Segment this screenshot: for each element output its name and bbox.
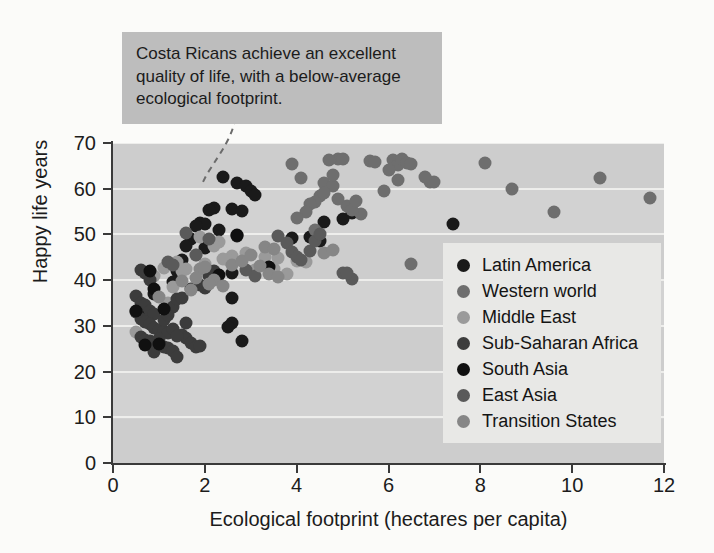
data-point bbox=[235, 335, 248, 348]
data-point bbox=[166, 258, 179, 271]
scatter-chart-figure: 010203040506070 024681012 Happy life yea… bbox=[0, 0, 714, 553]
data-point bbox=[139, 339, 152, 352]
data-point bbox=[203, 277, 216, 290]
legend-item-label: Sub-Saharan Africa bbox=[482, 333, 638, 354]
legend-item[interactable]: Middle East bbox=[457, 304, 661, 330]
data-point bbox=[249, 189, 262, 202]
legend-swatch-icon bbox=[457, 311, 470, 324]
data-point bbox=[235, 204, 248, 217]
data-point bbox=[180, 317, 193, 330]
y-axis-tick-label: 50 bbox=[56, 223, 96, 246]
data-point bbox=[198, 261, 211, 274]
data-point bbox=[194, 339, 207, 352]
legend-swatch-icon bbox=[457, 415, 470, 428]
x-axis-tick bbox=[112, 464, 114, 473]
x-axis-tick-label: 10 bbox=[552, 474, 592, 497]
data-point bbox=[405, 157, 418, 170]
data-point bbox=[157, 303, 170, 316]
legend-swatch-icon bbox=[457, 259, 470, 272]
y-axis-tick bbox=[103, 279, 112, 281]
legend-item-label: Latin America bbox=[482, 255, 591, 276]
data-point bbox=[391, 173, 404, 186]
y-axis-tick bbox=[103, 371, 112, 373]
data-point bbox=[221, 320, 234, 333]
x-axis-tick-label: 2 bbox=[185, 474, 225, 497]
legend-swatch-icon bbox=[457, 363, 470, 376]
x-axis-tick-label: 6 bbox=[369, 474, 409, 497]
data-point bbox=[152, 290, 165, 303]
y-axis-title: Happy life years bbox=[29, 87, 52, 337]
legend-swatch-icon bbox=[457, 389, 470, 402]
legend-item-label: Transition States bbox=[482, 411, 616, 432]
data-point bbox=[405, 258, 418, 271]
y-axis-tick bbox=[103, 188, 112, 190]
data-point bbox=[318, 187, 331, 200]
data-point bbox=[478, 156, 491, 169]
legend-item-label: South Asia bbox=[482, 359, 568, 380]
data-point bbox=[143, 265, 156, 278]
data-point bbox=[547, 205, 560, 218]
x-axis-tick bbox=[479, 464, 481, 473]
data-point bbox=[230, 229, 243, 242]
legend-item[interactable]: Latin America bbox=[457, 252, 661, 278]
y-axis-tick bbox=[103, 233, 112, 235]
y-axis-tick-label: 0 bbox=[56, 452, 96, 475]
x-axis-tick bbox=[204, 464, 206, 473]
y-axis-tick bbox=[103, 462, 112, 464]
x-axis-tick bbox=[663, 464, 665, 473]
data-point bbox=[217, 279, 230, 292]
legend-item-label: Middle East bbox=[482, 307, 576, 328]
y-axis-tick bbox=[103, 325, 112, 327]
data-point bbox=[226, 292, 239, 305]
chart-legend: Latin AmericaWestern worldMiddle EastSub… bbox=[443, 243, 661, 443]
data-point bbox=[290, 211, 303, 224]
data-point bbox=[593, 171, 606, 184]
data-point bbox=[295, 172, 308, 185]
y-axis-tick-label: 40 bbox=[56, 269, 96, 292]
data-point bbox=[506, 182, 519, 195]
x-axis-tick-label: 0 bbox=[93, 474, 133, 497]
y-axis-tick-label: 20 bbox=[56, 360, 96, 383]
x-axis-tick-label: 4 bbox=[277, 474, 317, 497]
data-point bbox=[368, 155, 381, 168]
data-point bbox=[313, 227, 326, 240]
data-point bbox=[446, 218, 459, 231]
data-point bbox=[350, 194, 363, 207]
data-point bbox=[644, 192, 657, 205]
data-point bbox=[327, 169, 340, 182]
legend-item[interactable]: East Asia bbox=[457, 382, 661, 408]
x-axis-tick bbox=[571, 464, 573, 473]
data-point bbox=[203, 204, 216, 217]
data-point bbox=[185, 284, 198, 297]
data-point bbox=[189, 248, 202, 261]
data-point bbox=[286, 158, 299, 171]
data-point bbox=[377, 185, 390, 198]
data-point bbox=[419, 171, 432, 184]
data-point bbox=[267, 243, 280, 256]
legend-item-label: East Asia bbox=[482, 385, 557, 406]
legend-item[interactable]: South Asia bbox=[457, 356, 661, 382]
y-axis-tick-label: 30 bbox=[56, 314, 96, 337]
legend-item[interactable]: Sub-Saharan Africa bbox=[457, 330, 661, 356]
legend-swatch-icon bbox=[457, 337, 470, 350]
y-axis-tick bbox=[103, 416, 112, 418]
x-axis-tick bbox=[296, 464, 298, 473]
legend-item[interactable]: Transition States bbox=[457, 408, 661, 434]
data-point bbox=[341, 266, 354, 279]
data-point bbox=[171, 350, 184, 363]
legend-item-label: Western world bbox=[482, 281, 597, 302]
data-point bbox=[129, 305, 142, 318]
data-point bbox=[322, 154, 335, 167]
data-point bbox=[180, 226, 193, 239]
data-point bbox=[336, 153, 349, 166]
data-point bbox=[152, 338, 165, 351]
data-point bbox=[203, 233, 216, 246]
legend-item[interactable]: Western world bbox=[457, 278, 661, 304]
y-axis-tick-label: 70 bbox=[56, 132, 96, 155]
x-axis-tick-label: 8 bbox=[460, 474, 500, 497]
y-axis-tick bbox=[103, 142, 112, 144]
x-axis-tick bbox=[388, 464, 390, 473]
callout-box: Costa Ricans achieve an excellent qualit… bbox=[122, 32, 442, 124]
x-axis-tick-label: 12 bbox=[644, 474, 684, 497]
data-point bbox=[244, 248, 257, 261]
